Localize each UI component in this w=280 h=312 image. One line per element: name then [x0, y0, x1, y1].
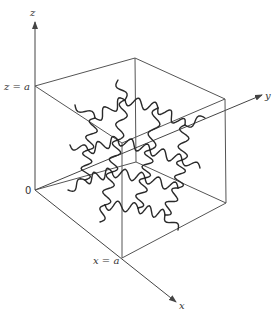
cube-polymer-diagram: z y x z = a x = a 0: [0, 0, 280, 312]
cube-edge: [122, 203, 226, 258]
polymer-chain: [165, 188, 178, 215]
polymer-chain: [125, 98, 158, 110]
z-axis-label: z: [29, 7, 36, 18]
cube-edge: [225, 99, 226, 203]
polymer-chain-end: [182, 160, 200, 168]
cube-edge: [35, 58, 135, 86]
x-axis-label: x: [179, 300, 185, 311]
polymer-chain-end: [116, 80, 127, 100]
polymer-network: [68, 80, 205, 230]
polymer-chain: [85, 168, 112, 184]
cube-edge: [35, 162, 136, 190]
polymer-chain: [150, 149, 182, 161]
polymer-chain: [136, 178, 147, 208]
y-axis: [35, 95, 262, 190]
origin-label: 0: [25, 185, 31, 196]
polymer-chain-end: [100, 205, 105, 222]
x-eq-a-label: x = a: [93, 255, 119, 266]
polymer-chain-end: [70, 145, 88, 150]
z-eq-a-label: z = a: [3, 81, 30, 92]
y-axis-label: y: [264, 90, 271, 101]
polymer-chain-end: [165, 215, 179, 230]
polymer-chain-end: [185, 116, 205, 127]
cube-edge: [135, 58, 225, 99]
cube-edge: [135, 58, 136, 162]
polymer-chain: [95, 98, 125, 120]
polymer-chain: [158, 108, 185, 125]
cube-edge: [122, 99, 225, 143]
cube: [35, 58, 226, 258]
polymer-chain-end: [75, 105, 95, 118]
polymer-chain: [118, 139, 150, 151]
cube-edge: [35, 86, 122, 143]
